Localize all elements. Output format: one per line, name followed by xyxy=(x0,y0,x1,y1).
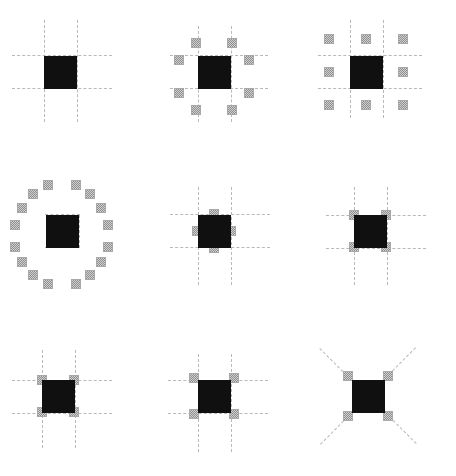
panel-stage xyxy=(152,159,304,318)
neighbor-square xyxy=(227,38,237,48)
neighbor-square xyxy=(174,88,184,98)
panel-radial-sixteen-neighbors xyxy=(0,159,152,318)
neighbor-square xyxy=(85,270,95,280)
panel-diagonal-axis-neighbors xyxy=(304,318,456,476)
neighbor-square xyxy=(28,189,38,199)
neighbor-square xyxy=(398,100,408,110)
panel-stage xyxy=(304,159,456,318)
center-square xyxy=(198,56,231,89)
neighbor-square xyxy=(191,38,201,48)
neighbor-square xyxy=(10,242,20,252)
center-square xyxy=(42,380,75,413)
guide-line-vertical xyxy=(79,215,80,248)
guide-line-vertical xyxy=(231,187,232,285)
panel-no-neighbors xyxy=(0,0,152,159)
guide-line-vertical xyxy=(387,187,388,285)
panel-eight-offset-neighbors xyxy=(152,0,304,159)
center-square xyxy=(198,380,231,413)
neighbor-square xyxy=(191,105,201,115)
panel-stage xyxy=(0,159,152,318)
neighbor-square xyxy=(85,189,95,199)
neighbor-square xyxy=(324,34,334,44)
panel-moore-neighborhood-3x3 xyxy=(304,0,456,159)
center-square xyxy=(352,380,385,413)
neighbor-square xyxy=(244,88,254,98)
neighbor-square xyxy=(10,220,20,230)
neighbor-square xyxy=(324,100,334,110)
panel-stage xyxy=(0,318,152,476)
neighborhood-figure xyxy=(0,0,456,476)
neighbor-square xyxy=(383,411,393,421)
neighbor-square xyxy=(343,411,353,421)
neighbor-square xyxy=(361,100,371,110)
panel-stage xyxy=(304,0,456,159)
neighbor-square xyxy=(103,220,113,230)
neighbor-square xyxy=(71,180,81,190)
panel-stage xyxy=(152,318,304,476)
guide-line-vertical xyxy=(231,354,232,452)
neighbor-square xyxy=(17,203,27,213)
neighbor-square xyxy=(71,279,81,289)
panel-corner-neighbors-outside xyxy=(152,318,304,476)
panel-von-neumann-edge-neighbors xyxy=(152,159,304,318)
neighbor-square xyxy=(324,67,334,77)
center-square xyxy=(354,215,387,248)
neighbor-square xyxy=(398,34,408,44)
panel-corner-diagonal-neighbors xyxy=(304,159,456,318)
panel-corner-neighbors-on-vertices xyxy=(0,318,152,476)
neighbor-square xyxy=(43,279,53,289)
center-square xyxy=(44,56,77,89)
panel-grid xyxy=(0,0,456,476)
neighbor-square xyxy=(96,257,106,267)
guide-line-vertical xyxy=(383,20,384,118)
neighbor-square xyxy=(96,203,106,213)
neighbor-square xyxy=(383,371,393,381)
guide-line-horizontal xyxy=(168,413,268,414)
neighbor-square xyxy=(398,67,408,77)
panel-stage xyxy=(304,318,456,476)
guide-line-horizontal xyxy=(12,413,112,414)
guide-line-horizontal xyxy=(326,248,426,249)
neighbor-square xyxy=(28,270,38,280)
guide-line-vertical xyxy=(77,20,78,122)
neighbor-square xyxy=(227,105,237,115)
center-square xyxy=(350,56,383,89)
neighbor-square xyxy=(229,409,239,419)
neighbor-square xyxy=(174,55,184,65)
center-square xyxy=(46,215,79,248)
neighbor-square xyxy=(244,55,254,65)
panel-stage xyxy=(152,0,304,159)
neighbor-square xyxy=(43,180,53,190)
neighbor-square xyxy=(361,34,371,44)
panel-stage xyxy=(0,0,152,159)
neighbor-square xyxy=(17,257,27,267)
neighbor-square xyxy=(229,373,239,383)
neighbor-square xyxy=(103,242,113,252)
center-square xyxy=(198,215,231,248)
guide-line-vertical xyxy=(75,350,76,448)
